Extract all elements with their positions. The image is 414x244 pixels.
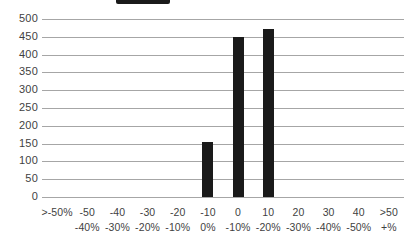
y-tick-label: 200 xyxy=(0,120,38,131)
plot-area xyxy=(42,19,404,197)
gridline xyxy=(42,37,404,38)
y-tick-label: 450 xyxy=(0,31,38,42)
y-tick-label: 100 xyxy=(0,155,38,166)
gridline xyxy=(42,197,404,198)
y-tick-label: 250 xyxy=(0,102,38,113)
x-tick-label: >50+% xyxy=(367,205,411,235)
gridline xyxy=(42,90,404,91)
gridline xyxy=(42,108,404,109)
gridline xyxy=(42,179,404,180)
y-tick-label: 150 xyxy=(0,138,38,149)
x-tick-label-line1: >50 xyxy=(367,205,411,220)
x-axis: >-50%-50-40%-40-30%-30-20%-20-10%-100%0-… xyxy=(42,205,404,241)
y-tick-label: 350 xyxy=(0,66,38,77)
y-tick-label: 400 xyxy=(0,49,38,60)
gridline xyxy=(42,144,404,145)
x-tick-label-line2: +% xyxy=(367,220,411,235)
gridline xyxy=(42,161,404,162)
y-tick-label: 300 xyxy=(0,84,38,95)
y-tick-label: 50 xyxy=(0,173,38,184)
gridline xyxy=(42,19,404,20)
y-tick-label: 500 xyxy=(0,13,38,24)
y-tick-label: 0 xyxy=(0,191,38,202)
histogram-chart: 500450400350300250200150100500 >-50%-50-… xyxy=(0,0,414,244)
y-axis: 500450400350300250200150100500 xyxy=(0,19,38,197)
bar[interactable] xyxy=(202,142,213,197)
bar[interactable] xyxy=(263,29,274,197)
gridline xyxy=(42,55,404,56)
bar[interactable] xyxy=(233,37,244,197)
gridline xyxy=(42,72,404,73)
chart-title-remnant xyxy=(236,0,340,2)
gridline xyxy=(42,126,404,127)
legend-swatch xyxy=(116,0,170,4)
chart-header-strip xyxy=(0,0,414,8)
